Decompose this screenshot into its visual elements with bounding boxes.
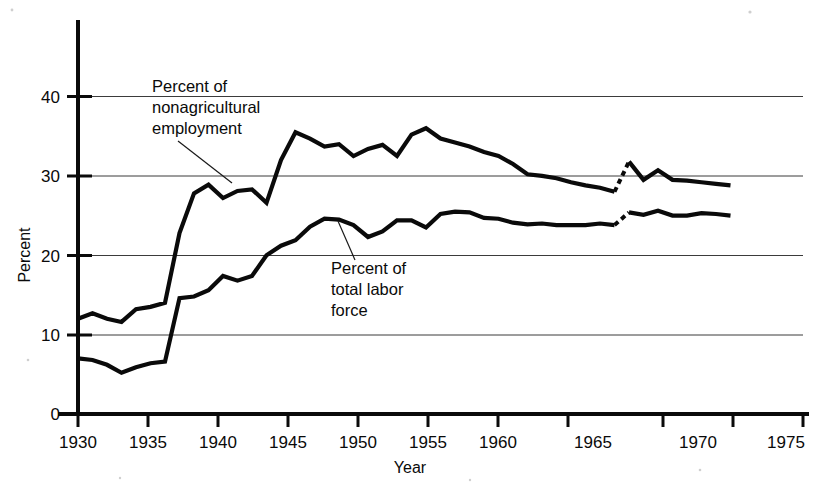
- nonagricultural-annotation-leader: [178, 141, 232, 183]
- y-tick-labels: 40 30 20 10 0: [41, 88, 60, 424]
- y-tick-label-40: 40: [41, 88, 60, 107]
- y-tick-label-20: 20: [41, 247, 60, 266]
- nonagricultural-annotation-line-1: Percent of: [152, 77, 228, 95]
- data-series-group: [78, 128, 731, 372]
- nonagricultural-annotation-line-2: nonagricultural: [152, 98, 260, 116]
- x-tick-label-1960: 1960: [479, 433, 517, 452]
- total-labor-force-annotation-line-2: total labor: [331, 280, 404, 298]
- x-tick-label-1945: 1945: [269, 433, 307, 452]
- x-tick-label-1975: 1975: [767, 433, 805, 452]
- total-labor-force-annotation-line-3: force: [331, 301, 368, 319]
- series-total-labor-force-line-late: [629, 211, 731, 216]
- series-total-labor-force-break: [615, 212, 630, 225]
- y-tick-label-30: 30: [41, 167, 60, 186]
- x-tick-label-1955: 1955: [409, 433, 447, 452]
- series-nonagricultural-employment-break: [615, 162, 630, 192]
- x-tick-label-1940: 1940: [199, 433, 237, 452]
- series-nonagricultural-employment-line-late: [629, 162, 731, 186]
- x-axis-title: Year: [394, 459, 427, 476]
- nonagricultural-annotation: Percent of nonagricultural employment: [152, 77, 260, 183]
- chart-canvas: 40 30 20 10 0 1930 1935 1940 1945 195: [0, 0, 824, 490]
- x-tick-label-1930: 1930: [59, 433, 97, 452]
- y-tick-label-10: 10: [41, 326, 60, 345]
- y-axis-title: Percent: [16, 227, 33, 283]
- x-tick-labels: 1930 1935 1940 1945 1950 1955 1960 1965 …: [59, 433, 805, 452]
- chart-figure: 40 30 20 10 0 1930 1935 1940 1945 195: [0, 0, 824, 490]
- paper-texture: [11, 9, 752, 482]
- total-labor-force-annotation-line-1: Percent of: [331, 259, 407, 277]
- x-tick-label-1965: 1965: [574, 433, 612, 452]
- x-tick-label-1970: 1970: [679, 433, 717, 452]
- y-tick-label-0: 0: [51, 405, 60, 424]
- nonagricultural-annotation-line-3: employment: [152, 119, 242, 137]
- x-tick-label-1950: 1950: [339, 433, 377, 452]
- x-tick-label-1935: 1935: [129, 433, 167, 452]
